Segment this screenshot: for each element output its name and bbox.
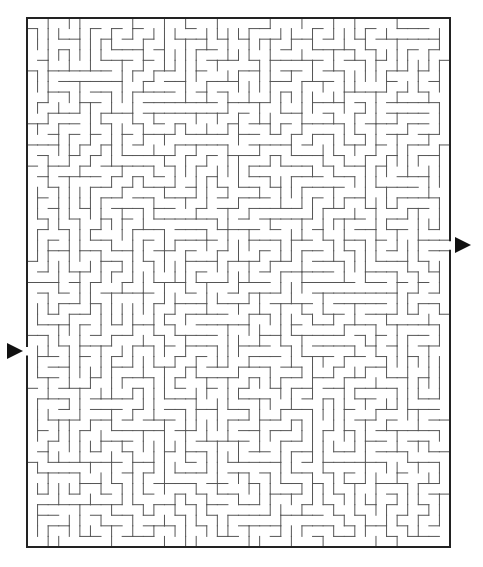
maze-grid (0, 0, 483, 567)
exit-arrow-icon (455, 237, 471, 253)
maze-walls (27, 18, 450, 547)
maze-puzzle (0, 0, 483, 567)
entrance-arrow-icon (7, 343, 23, 359)
